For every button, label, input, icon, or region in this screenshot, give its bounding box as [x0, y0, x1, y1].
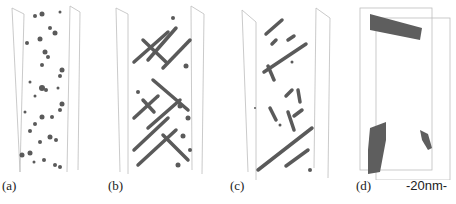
panel-a-label: (a) [2, 178, 16, 194]
panel-b-label: (b) [108, 178, 123, 194]
panel-d-reconstruction [350, 0, 456, 180]
panel-a: (a) [0, 0, 90, 204]
panel-a-reconstruction [0, 0, 90, 180]
panel-b-reconstruction [108, 0, 208, 180]
panel-b: (b) [108, 0, 208, 204]
panel-d-label: (d) [356, 178, 371, 194]
panel-c-label: (c) [230, 178, 244, 194]
panel-c-reconstruction [228, 0, 332, 180]
panel-d: (d) [350, 0, 456, 204]
scale-bar: -20nm- [406, 178, 447, 193]
panel-c: (c) [228, 0, 332, 204]
